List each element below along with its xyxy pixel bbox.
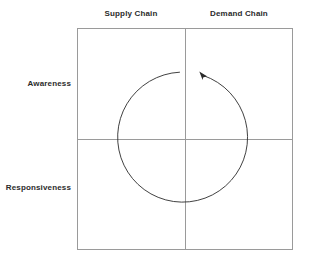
row-header-responsiveness: Responsiveness xyxy=(6,183,71,193)
row-header-awareness: Awareness xyxy=(28,79,71,89)
cycle-arc xyxy=(118,72,248,202)
cycle-arrowhead-icon xyxy=(199,72,207,80)
quadrant-diagram xyxy=(0,0,309,263)
column-header-demand-chain: Demand Chain xyxy=(185,9,293,19)
column-header-supply-chain: Supply Chain xyxy=(77,9,185,19)
